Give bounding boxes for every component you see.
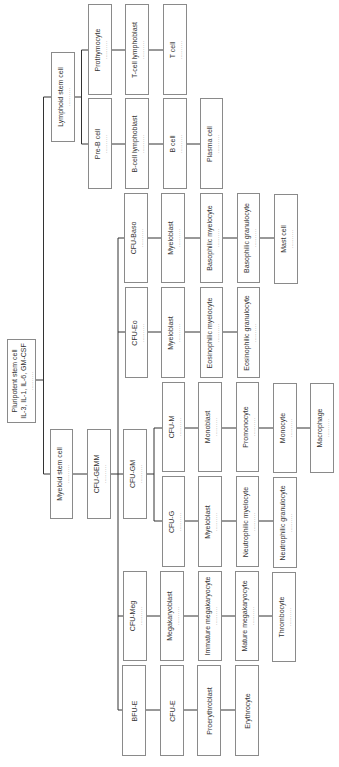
node-proerythroblast: Proerythroblast [197,665,221,756]
node-neutrophilic-granulocyte: Neutrophilic granulocyte.......... [273,477,297,568]
node-baso-myeloblast: Myeloblast.......... [161,193,185,283]
dotted-placeholder: .......... [138,465,143,484]
dotted-placeholder: .......... [176,229,181,248]
node-label: Lymphoid stem cell [56,67,65,127]
dotted-placeholder: .......... [213,607,218,626]
node-label: CFU-M [166,416,175,439]
node-basophilic-myelocyte: Basophilic myelocyte.......... [200,193,223,283]
node-label: Eosinophilic myelocyte [204,297,213,368]
node-label: Prothymocyte [93,28,102,71]
dotted-placeholder: .......... [178,40,183,59]
node-label: Megakaryoblast [165,591,174,640]
node-t-cell-lymphoblast: T-cell lymphoblast.......... [125,4,149,95]
node-label: CFU-Eo [129,320,138,345]
dotted-placeholder: .......... [178,134,183,153]
node-label: Pluripotent stem cell [10,349,19,412]
node-label: Erythrocyte [243,693,252,728]
node-cfu-e: CFU-E [160,665,184,756]
node-prothymocyte: Prothymocyte.......... [88,4,112,95]
dotted-placeholder: .......... [288,513,293,532]
dotted-placeholder: .......... [214,323,219,342]
node-monoblast: Monoblast.......... [198,382,222,472]
node-label: CFU-G [166,510,175,532]
node-sublabel: IL-3, IL-1, IL-6, GM-CSF [19,343,28,418]
dotted-placeholder: .......... [103,40,108,59]
node-cfu-gm: CFU-GM.......... [123,429,147,519]
dotted-placeholder: .......... [138,607,143,626]
node-label: B-cell lymphoblast [130,115,139,172]
node-thrombocyte: Thrombocyte.......... [272,572,296,662]
node-label: Plasma cell [204,126,213,162]
node-label: Pre-B cell [93,128,102,158]
dotted-placeholder: .......... [287,608,292,627]
node-eo-myeloblast: Myeloblast.......... [161,287,185,378]
dotted-placeholder: .......... [213,418,218,437]
dotted-placeholder: .......... [140,40,145,59]
node-bfu-e: BFU-E [122,665,146,756]
node-label: Myeloblast [166,316,175,349]
node-erythrocyte: Erythrocyte [235,665,259,756]
node-label: Thrombocyte [277,597,286,638]
node-label: Eosinophilic granulocyte [241,295,250,371]
node-pre-b-cell: Pre-B cell.......... [88,98,112,189]
node-label: B cell [168,135,177,152]
node-label: Myeloblast [166,221,175,254]
node-label: Basophilic granulocyte [241,203,250,273]
dotted-placeholder: .......... [250,512,255,531]
node-label: T cell [168,41,177,58]
node-label: Immature megakaryocyte [203,577,212,656]
hematopoiesis-diagram: Pluripotent stem cell IL-3, IL-1, IL-6, … [0,0,339,767]
node-lymphoid-stem-cell: Lymphoid stem cell.......... [51,52,75,142]
node-label: Proerythroblast [205,687,214,734]
dotted-placeholder: .......... [214,229,219,248]
node-cfu-eo: CFU-Eo.......... [125,287,148,378]
node-plasma-cell: Plasma cell.......... [200,98,223,189]
node-t-cell: T cell.......... [163,4,187,95]
node-label: Neutrophilic granulocyte [278,485,287,560]
node-label: CFU-GM [128,460,137,488]
dotted-placeholder: .......... [288,419,293,438]
node-neut-myeloblast: Myeloblast.......... [198,476,222,567]
node-cfu-m: CFU-M.......... [162,382,185,472]
dotted-placeholder: .......... [176,323,181,342]
dotted-placeholder: .......... [139,229,144,248]
node-macrophage: Macrophage.......... [310,383,334,473]
node-b-cell-lymphoblast: B-cell lymphoblast.......... [125,98,149,189]
node-pluripotent-stem-cell: Pluripotent stem cell IL-3, IL-1, IL-6, … [7,339,36,423]
dotted-placeholder: .......... [176,512,181,531]
dotted-placeholder: .......... [214,134,219,153]
node-mature-megakaryocyte: Mature megakaryocyte.......... [235,571,259,661]
node-monocyte: Monocyte.......... [273,383,297,473]
dotted-placeholder: .......... [251,229,256,248]
node-mast-cell: Mast cell.......... [274,194,298,284]
dotted-placeholder: .......... [213,512,218,531]
node-b-cell: B cell.......... [163,98,187,189]
node-cfu-gemm: CFU-GEMM.......... [87,429,111,519]
node-label: Basophilic myelocyte [204,205,213,270]
dotted-placeholder: .......... [29,372,34,391]
dotted-placeholder: .......... [289,230,294,249]
node-label: Monoblast [203,411,212,443]
node-label: Mast cell [279,225,288,253]
node-label: BFU-E [130,700,139,721]
node-label: CFU-Meg [128,601,137,631]
node-immature-megakaryocyte: Immature megakaryocyte.......... [198,571,222,661]
node-label: Macrophage [315,409,324,448]
node-basophilic-granulocyte: Basophilic granulocyte.......... [237,193,260,283]
dotted-placeholder: .......... [103,134,108,153]
node-eosinophilic-granulocyte: Eosinophilic granulocyte.......... [237,287,260,378]
node-label: CFU-E [168,700,177,721]
dotted-placeholder: .......... [325,419,330,438]
node-cfu-baso: CFU-Baso.......... [124,193,148,283]
node-cfu-g: CFU-G.......... [162,476,185,567]
dotted-placeholder: .......... [251,323,256,342]
dotted-placeholder: .......... [140,134,145,153]
node-label: Monocyte [278,413,287,443]
node-label: Neutrophilic myelocyte [240,486,249,556]
dotted-placeholder: .......... [102,465,107,484]
dotted-placeholder: .......... [176,418,181,437]
dotted-placeholder: .......... [250,418,255,437]
node-label: Myeloid stem cell [54,447,63,501]
node-myeloid-stem-cell: Myeloid stem cell.......... [50,429,73,519]
node-megakaryoblast: Megakaryoblast.......... [160,571,184,661]
